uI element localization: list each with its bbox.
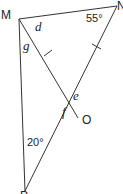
angle-label-P: 20° [27, 136, 44, 148]
segment-MO [19, 19, 78, 118]
angle-label-e: e [73, 88, 79, 103]
point-label-M: M [1, 8, 11, 22]
angle-label-N: 55° [86, 12, 103, 24]
point-label-N: N [117, 0, 123, 13]
angle-label-d: d [35, 19, 42, 34]
angle-label-g: g [23, 38, 30, 53]
triangle-diagram: M N O P d g e f 55° 20° [0, 0, 123, 194]
point-label-P: P [20, 189, 28, 194]
point-label-O: O [82, 113, 91, 127]
tick-mark-MO [44, 50, 52, 56]
